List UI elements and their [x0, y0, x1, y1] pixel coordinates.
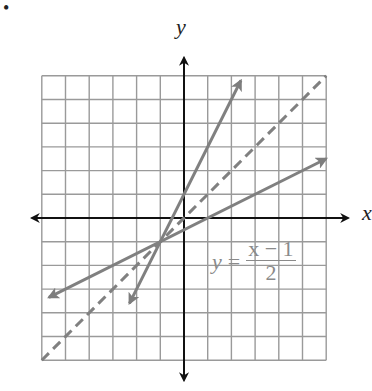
equation-lhs: y [212, 249, 222, 275]
equation-numerator: x − 1 [246, 238, 295, 261]
equation-fraction: x − 1 2 [246, 238, 295, 285]
equation-denominator: 2 [265, 261, 276, 285]
equation-equals: = [228, 249, 240, 275]
axes [32, 58, 348, 380]
equation-label: y = x − 1 2 [212, 238, 296, 285]
